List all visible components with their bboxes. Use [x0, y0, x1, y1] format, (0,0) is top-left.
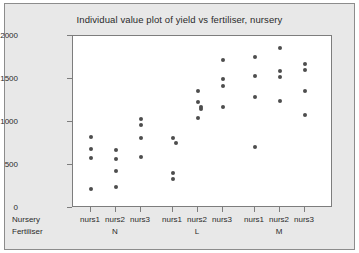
data-point: [303, 113, 307, 117]
data-point: [199, 107, 203, 111]
individual-value-plot-figure: Individual value plot of yield vs fertil…: [0, 0, 359, 253]
data-point: [114, 157, 118, 161]
y-tick-mark: [67, 207, 72, 208]
y-tick-label: 1000: [0, 117, 18, 126]
x-tick-mark: [115, 207, 116, 212]
data-point: [89, 187, 93, 191]
x-axis-group-label: N: [85, 227, 145, 236]
data-point: [89, 156, 93, 160]
row-header-nursery: Nursery: [12, 215, 40, 224]
data-point: [221, 105, 225, 109]
data-point: [221, 58, 225, 62]
data-point: [89, 135, 93, 139]
data-point: [89, 147, 93, 151]
plot-area: [72, 35, 332, 207]
y-tick-label: 0: [0, 203, 18, 212]
data-point: [139, 155, 143, 159]
data-point: [253, 145, 257, 149]
x-tick-mark: [90, 207, 91, 212]
y-tick-label: 2000: [0, 31, 18, 40]
data-point: [221, 77, 225, 81]
data-point: [196, 116, 200, 120]
row-header-fertiliser: Fertiliser: [12, 227, 43, 236]
x-tick-label: nurs3: [281, 215, 327, 224]
data-point: [278, 99, 282, 103]
x-tick-mark: [279, 207, 280, 212]
data-point: [303, 62, 307, 66]
data-point: [196, 100, 200, 104]
x-tick-mark: [304, 207, 305, 212]
y-tick-label: 1500: [0, 74, 18, 83]
x-tick-mark: [197, 207, 198, 212]
data-point: [278, 69, 282, 73]
data-points-layer: [73, 36, 331, 206]
data-point: [171, 136, 175, 140]
data-point: [278, 75, 282, 79]
x-tick-mark: [222, 207, 223, 212]
data-point: [114, 148, 118, 152]
data-point: [171, 177, 175, 181]
data-point: [253, 95, 257, 99]
y-tick-label: 500: [0, 160, 18, 169]
data-point: [139, 117, 143, 121]
x-axis-group-label: L: [167, 227, 227, 236]
x-tick-mark: [172, 207, 173, 212]
data-point: [278, 46, 282, 50]
page-title: Individual value plot of yield vs fertil…: [0, 14, 359, 25]
x-tick-mark: [140, 207, 141, 212]
data-point: [171, 171, 175, 175]
data-point: [139, 123, 143, 127]
data-point: [303, 68, 307, 72]
x-axis-group-label: M: [249, 227, 309, 236]
data-point: [303, 89, 307, 93]
data-point: [139, 136, 143, 140]
data-point: [174, 141, 178, 145]
data-point: [221, 84, 225, 88]
x-tick-mark: [254, 207, 255, 212]
data-point: [253, 74, 257, 78]
data-point: [114, 185, 118, 189]
data-point: [114, 169, 118, 173]
data-point: [196, 89, 200, 93]
data-point: [253, 55, 257, 59]
